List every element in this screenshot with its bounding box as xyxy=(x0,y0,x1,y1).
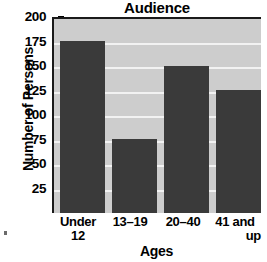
bar xyxy=(112,139,157,213)
y-axis-tick-label: 75 xyxy=(14,135,46,145)
x-axis-tick-label: 20–40 xyxy=(157,215,209,229)
x-axis-tick-label-line2: up xyxy=(209,229,261,243)
scan-artifact-speck xyxy=(4,231,7,235)
y-axis-tick-label: 200 xyxy=(14,12,46,22)
y-axis-tick-label: 50 xyxy=(14,159,46,169)
bar-chart: Audience Number of Persons 2001751501251… xyxy=(0,0,267,262)
bar xyxy=(216,90,261,213)
x-axis-tick-label-line1: 20–40 xyxy=(166,214,201,229)
x-axis-title: Ages xyxy=(52,243,261,259)
x-axis-tick-label: 13–19 xyxy=(104,215,156,229)
x-axis-tick-label: 41 andup xyxy=(209,215,261,243)
bar xyxy=(164,66,209,213)
y-axis-tick-label: 150 xyxy=(14,61,46,71)
plot-area xyxy=(52,17,261,213)
y-axis-tick-label: 125 xyxy=(14,86,46,96)
x-axis-tick-label-line1: Under xyxy=(60,214,96,229)
x-axis-tick-label-line1: 41 and xyxy=(215,214,254,229)
y-axis-tick-label: 25 xyxy=(14,184,46,194)
x-axis-tick-labels: Under1213–1920–4041 andup xyxy=(52,215,261,245)
x-axis-tick-label: Under12 xyxy=(52,215,104,243)
chart-title: Audience xyxy=(52,0,262,17)
bar xyxy=(60,41,105,213)
y-axis-tick-label: 175 xyxy=(14,37,46,47)
y-axis-tick-labels: 200175150125100755025 xyxy=(12,0,46,262)
y-axis-tick-label: 100 xyxy=(14,110,46,120)
x-axis-tick-label-line2: 12 xyxy=(52,229,104,243)
x-axis-tick-label-line1: 13–19 xyxy=(113,214,148,229)
